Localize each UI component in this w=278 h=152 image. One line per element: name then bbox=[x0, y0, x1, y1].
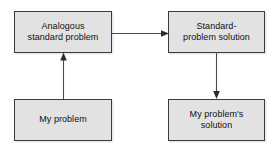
node-label-analogous-standard-problem: Analogous standard problem bbox=[25, 21, 102, 44]
node-analogous-standard-problem: Analogous standard problem bbox=[14, 11, 112, 53]
node-label-my-problem: My problem bbox=[36, 114, 90, 126]
arrow-down-standard-problem-solution-to-my-problems-solution bbox=[205, 52, 229, 100]
node-my-problems-solution: My problem's solution bbox=[168, 99, 265, 141]
arrow-up-my-problem-to-analogous-standard-problem bbox=[52, 52, 76, 100]
arrow-right-analogous-to-standard-problem-solution bbox=[112, 22, 170, 44]
node-my-problem: My problem bbox=[14, 99, 112, 141]
node-label-standard-problem-solution: Standard- problem solution bbox=[180, 21, 253, 44]
node-standard-problem-solution: Standard- problem solution bbox=[168, 11, 265, 53]
node-label-my-problems-solution: My problem's solution bbox=[187, 109, 247, 132]
diagram-canvas: Analogous standard problem Standard- pro… bbox=[0, 0, 278, 152]
